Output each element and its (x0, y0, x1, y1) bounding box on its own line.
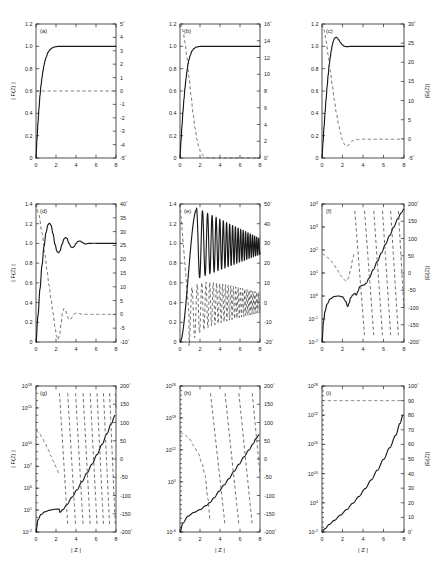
y-axis-label: | F(Z) | (10, 450, 16, 467)
svg-text:4: 4 (120, 34, 123, 40)
phase-branch (60, 393, 68, 524)
phase-branch (83, 393, 90, 524)
svg-text:5°: 5° (120, 20, 125, 28)
svg-text:0: 0 (408, 270, 411, 276)
phase-branch (90, 393, 97, 524)
svg-text:10: 10 (264, 280, 270, 286)
svg-text:2: 2 (199, 536, 202, 542)
panel-tag-b: (b) (184, 28, 191, 34)
svg-text:1.0: 1.0 (25, 240, 33, 246)
svg-text:2: 2 (199, 162, 202, 168)
panel-tag-f: (f) (326, 208, 332, 214)
svg-text:0: 0 (321, 346, 324, 352)
plot-frame (322, 386, 404, 532)
svg-text:0: 0 (35, 536, 38, 542)
svg-text:1: 1 (120, 75, 123, 81)
svg-text:50°: 50° (264, 200, 272, 208)
curve-phase-dashed (322, 253, 354, 281)
svg-text:1019: 1019 (166, 413, 176, 421)
svg-text:200°: 200° (408, 200, 419, 208)
svg-text:104: 104 (310, 200, 319, 208)
svg-text:5: 5 (408, 117, 411, 123)
svg-text:200°: 200° (264, 382, 275, 390)
svg-text:100: 100 (310, 292, 319, 300)
phase-branch (211, 393, 226, 524)
svg-text:15: 15 (408, 78, 414, 84)
svg-text:4: 4 (75, 536, 78, 542)
svg-text:0: 0 (30, 155, 33, 161)
svg-text:1.0: 1.0 (311, 43, 319, 49)
svg-text:90: 90 (408, 398, 414, 404)
phase-branch (239, 393, 252, 524)
panel-i: 0246810-210410101016102210280°1020304050… (292, 378, 434, 558)
svg-text:70: 70 (408, 427, 414, 433)
svg-text:1028: 1028 (308, 382, 318, 390)
svg-text:16°: 16° (264, 20, 272, 28)
y-axis-label: | F(Z) | (10, 82, 16, 99)
svg-text:6: 6 (382, 346, 385, 352)
panel-tag-d: (d) (40, 208, 47, 214)
svg-text:1.2: 1.2 (169, 21, 177, 27)
svg-text:3: 3 (120, 48, 123, 54)
svg-text:105: 105 (168, 477, 176, 485)
svg-text:20: 20 (408, 500, 414, 506)
svg-text:1022: 1022 (308, 411, 318, 419)
curve-magnitude-solid (180, 208, 260, 342)
svg-text:-5°: -5° (120, 154, 127, 162)
svg-text:6: 6 (95, 346, 98, 352)
svg-text:0.4: 0.4 (25, 300, 33, 306)
svg-text:-150: -150 (120, 511, 131, 517)
svg-text:0.2: 0.2 (169, 319, 177, 325)
panel-e: 0246800.20.40.60.81.01.21.4-20°-10010203… (150, 196, 290, 368)
svg-text:-3: -3 (120, 128, 125, 134)
svg-text:104: 104 (24, 484, 33, 492)
svg-text:0.6: 0.6 (25, 88, 33, 94)
svg-text:10: 10 (264, 71, 270, 77)
svg-text:2: 2 (55, 346, 58, 352)
svg-text:0.8: 0.8 (25, 260, 33, 266)
svg-text:4: 4 (362, 536, 365, 542)
svg-text:6: 6 (239, 346, 242, 352)
x-axis-label: | Z | (71, 547, 81, 553)
svg-text:0: 0 (30, 339, 33, 345)
svg-text:100: 100 (264, 420, 273, 426)
svg-text:0: 0 (35, 162, 38, 168)
svg-text:1016: 1016 (308, 440, 318, 448)
svg-text:150: 150 (120, 401, 129, 407)
svg-text:0: 0 (120, 311, 123, 317)
svg-text:25: 25 (408, 40, 414, 46)
svg-text:40: 40 (408, 471, 414, 477)
panel-h: 0246810-6105101210191026-200°-150-100-50… (150, 378, 290, 558)
curve-phase-dashed (322, 24, 404, 147)
y2-axis-label: |E(Z)| (424, 84, 430, 99)
svg-text:40: 40 (264, 221, 270, 227)
wrapped-phase-branches (60, 393, 117, 524)
svg-text:0: 0 (264, 456, 267, 462)
svg-text:103: 103 (310, 223, 318, 231)
svg-text:-10: -10 (264, 319, 272, 325)
svg-text:0.2: 0.2 (169, 133, 177, 139)
svg-text:1.0: 1.0 (25, 43, 33, 49)
svg-text:101: 101 (24, 506, 32, 513)
svg-text:-100: -100 (264, 493, 275, 499)
svg-text:4: 4 (75, 346, 78, 352)
svg-text:6: 6 (95, 536, 98, 542)
svg-text:0.4: 0.4 (169, 110, 177, 116)
y-axis-label: | F(Z) | (10, 264, 16, 281)
plot-frame (180, 24, 260, 158)
phase-branch (68, 393, 76, 524)
svg-text:0.4: 0.4 (25, 110, 33, 116)
svg-text:10-2: 10-2 (23, 528, 32, 536)
svg-text:10-1: 10-1 (309, 315, 318, 323)
curve-magnitude-solid (36, 416, 115, 532)
svg-text:-1: -1 (120, 101, 125, 107)
figure-nine-panel: 0246800.20.40.60.81.01.2-5°-4-3-2-101234… (0, 0, 437, 561)
svg-text:0.6: 0.6 (311, 88, 319, 94)
svg-text:8: 8 (259, 162, 262, 168)
svg-text:0: 0 (316, 155, 319, 161)
y2-axis-label: |E(Z)| (424, 266, 430, 281)
svg-text:0: 0 (321, 162, 324, 168)
y2-axis-label: |E(Z)| (424, 452, 430, 467)
svg-text:0: 0 (179, 346, 182, 352)
svg-text:1015: 1015 (22, 403, 32, 411)
